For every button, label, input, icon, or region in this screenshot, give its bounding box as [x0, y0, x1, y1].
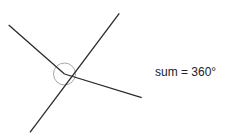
angle-sum-label: sum = 360° [155, 65, 216, 79]
line-through-point [30, 13, 119, 132]
ray-lower-right [65, 74, 142, 98]
ray-upper-left [9, 25, 65, 74]
